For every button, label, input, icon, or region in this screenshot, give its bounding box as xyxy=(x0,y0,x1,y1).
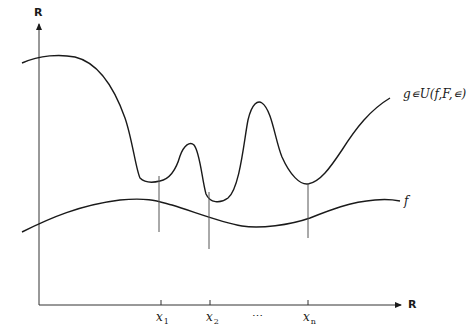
tick-label-base: x xyxy=(303,310,310,324)
y-axis-label: R xyxy=(34,6,42,19)
tick-label-subscript: 2 xyxy=(214,317,219,326)
tick-label-base: x xyxy=(206,310,213,324)
tick-label-x1: x1 xyxy=(156,310,169,326)
x-axis-label: R xyxy=(408,298,416,311)
curve-f xyxy=(22,199,400,232)
tick-label-xn: xn xyxy=(303,310,316,326)
tick-label-subscript: 1 xyxy=(164,317,169,326)
diagram-figure: R R g∊U(f,F,∊) f x1 x2 ⋯ xn xyxy=(0,0,475,333)
tick-label-x2: x2 xyxy=(206,310,219,326)
tick-label-ellipsis: ⋯ xyxy=(252,310,263,323)
curve-f-label: f xyxy=(404,194,408,208)
curve-g-label: g∊U(f,F,∊) xyxy=(403,87,466,101)
curve-g xyxy=(22,55,390,201)
diagram-canvas xyxy=(0,0,475,333)
tick-label-base: x xyxy=(156,310,163,324)
tick-label-subscript: n xyxy=(311,317,316,326)
